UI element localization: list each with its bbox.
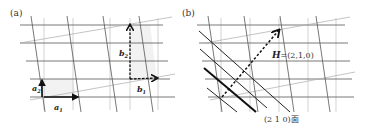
vector-H-arrow xyxy=(222,30,279,97)
b2-label: b2 xyxy=(119,48,129,59)
b1-label: b1 xyxy=(137,84,146,95)
lattice-diagram: (a) a2 a1 b2 b1 xyxy=(0,0,365,132)
H-label: H=(2,1,0) xyxy=(271,50,314,60)
panel-b: (b) H=(2,1,0) (2 1 0)面 xyxy=(182,8,355,124)
panel-b-label: (b) xyxy=(182,8,195,18)
plane-label: (2 1 0)面 xyxy=(264,115,299,124)
crystal-lattice-figure: (a) a2 a1 b2 b1 xyxy=(0,0,365,132)
panel-a-label: (a) xyxy=(10,8,22,18)
reciprocal-cell-shade xyxy=(130,25,157,79)
a2-label: a2 xyxy=(32,83,41,94)
a1-label: a1 xyxy=(54,102,63,113)
horizontal-lattice-lines-b xyxy=(197,25,354,97)
slanted-lattice-lines-b xyxy=(208,16,330,112)
panel-a: (a) a2 a1 b2 b1 xyxy=(10,8,175,113)
horizontal-lattice-lines xyxy=(20,25,175,97)
